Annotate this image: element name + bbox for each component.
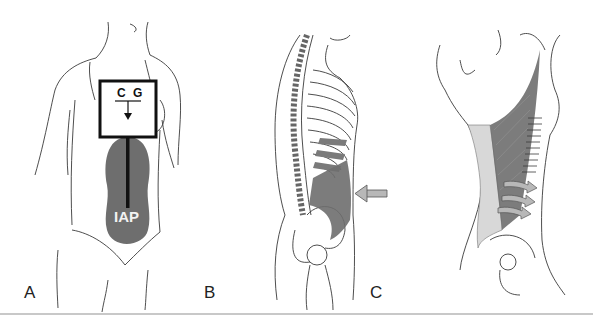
panel-label-a: A xyxy=(24,283,35,303)
panel-label-c: C xyxy=(370,283,382,303)
torso-front-illustration xyxy=(0,0,195,312)
center-of-gravity-label: C G xyxy=(117,86,144,100)
panel-a: C G IAP xyxy=(0,0,195,312)
panel-b xyxy=(195,0,390,312)
panel-c xyxy=(390,0,593,312)
spine-ribcage-lateral-illustration xyxy=(195,0,390,312)
thoracolumbar-fascia-illustration xyxy=(390,0,593,312)
intra-abdominal-pressure-label: IAP xyxy=(114,208,139,225)
bottom-divider xyxy=(0,313,593,315)
panel-label-b: B xyxy=(204,283,215,303)
inward-pressure-arrow xyxy=(355,185,387,202)
